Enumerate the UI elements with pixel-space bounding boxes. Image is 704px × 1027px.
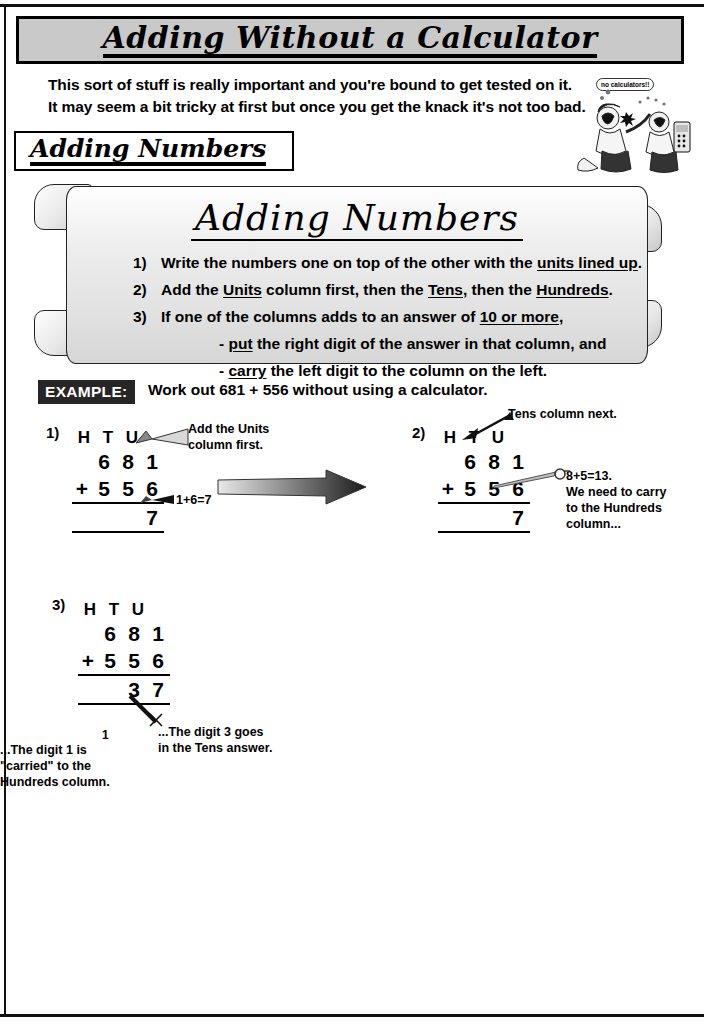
step-3-note-a: ...The digit 3 goes in the Tens answer. (158, 724, 308, 756)
header-t: T (96, 428, 120, 448)
flow-arrow-1 (218, 470, 368, 510)
page-top-rule (0, 4, 704, 7)
example-tag: EXAMPLE: (38, 380, 135, 404)
step-1-callout: Add the Units column first. (188, 421, 298, 453)
plus-operator: + (72, 477, 92, 501)
rule-item: 3) If one of the columns adds to an answ… (133, 303, 653, 330)
intro-paragraph: This sort of stuff is really important a… (48, 74, 568, 118)
sub-rule-item: - put the right digit of the answer in t… (133, 330, 653, 357)
rule-item: 1) Write the numbers one on top of the o… (133, 249, 653, 276)
rule-text: Write the numbers one on top of the othe… (161, 249, 642, 276)
page-left-rule (4, 7, 6, 1014)
rule-number: 3) (133, 303, 161, 330)
step-1-working: 1+6=7 (176, 492, 211, 508)
answer-row: 7 (72, 504, 164, 531)
step-3-note-b: ...The digit 1 is "carried" to the Hundr… (0, 742, 160, 790)
step-3-label: 3) (52, 596, 65, 613)
page-title-bar: Adding Without a Calculator (16, 16, 684, 64)
scroll-body: Adding Numbers 1) Write the numbers one … (66, 186, 648, 364)
answer-row: 7 (438, 504, 530, 531)
pen-pointer-1 (138, 492, 176, 508)
top-number: 6 8 1 (78, 620, 170, 647)
pen-pointer-2 (492, 466, 570, 490)
step-2-label: 2) (412, 424, 425, 441)
header-u: U (126, 600, 150, 620)
pencil-pointer-1 (132, 427, 190, 453)
step-1-label: 1) (46, 424, 59, 441)
header-h: H (78, 600, 102, 620)
rule-text: If one of the columns adds to an answer … (161, 303, 563, 330)
scroll-heading-text: Adding Numbers (191, 197, 523, 241)
answer-rule (72, 531, 164, 533)
section-heading-box: Adding Numbers (14, 131, 294, 171)
rule-number: 1) (133, 249, 161, 276)
step-3-grid: H T U 6 8 1 + 5 5 6 3 7 1 (78, 596, 170, 705)
plus-operator: + (78, 649, 98, 673)
worksheet-page: Adding Without a Calculator This sort of… (0, 0, 704, 1027)
intro-line-1: This sort of stuff is really important a… (48, 74, 568, 96)
cross-pointer-3a (128, 694, 166, 730)
header-t: T (102, 600, 126, 620)
step-2-callout: Tens column next. (508, 406, 617, 422)
rules-scroll-banner: Adding Numbers 1) Write the numbers one … (14, 182, 690, 368)
scroll-heading: Adding Numbers (67, 197, 647, 238)
rule-number: 2) (133, 276, 161, 303)
plus-operator: + (438, 477, 458, 501)
column-headers: H T U (78, 596, 170, 620)
intro-line-2: It may seem a bit tricky at first but on… (48, 96, 568, 118)
rule-text: Add the Units column first, then the Ten… (161, 276, 613, 303)
callout-arrow-tens (460, 412, 514, 442)
calculator-men-cartoon (562, 72, 700, 180)
rules-list: 1) Write the numbers one on top of the o… (133, 249, 653, 384)
page-title: Adding Without a Calculator (103, 22, 598, 59)
section-heading: Adding Numbers (30, 136, 266, 166)
answer-rule (438, 531, 530, 533)
sub-rule-item: - carry the left digit to the column on … (133, 357, 653, 384)
header-h: H (72, 428, 96, 448)
example-question: Work out 681 + 556 without using a calcu… (148, 381, 488, 399)
rule-item: 2) Add the Units column first, then the … (133, 276, 653, 303)
step-2-note: 8+5=13. We need to carry to the Hundreds… (566, 468, 696, 532)
header-h: H (438, 428, 462, 448)
bottom-number: + 5 5 6 (78, 647, 170, 674)
page-bottom-rule (0, 1014, 704, 1017)
carry-digit: 1 (102, 728, 109, 742)
